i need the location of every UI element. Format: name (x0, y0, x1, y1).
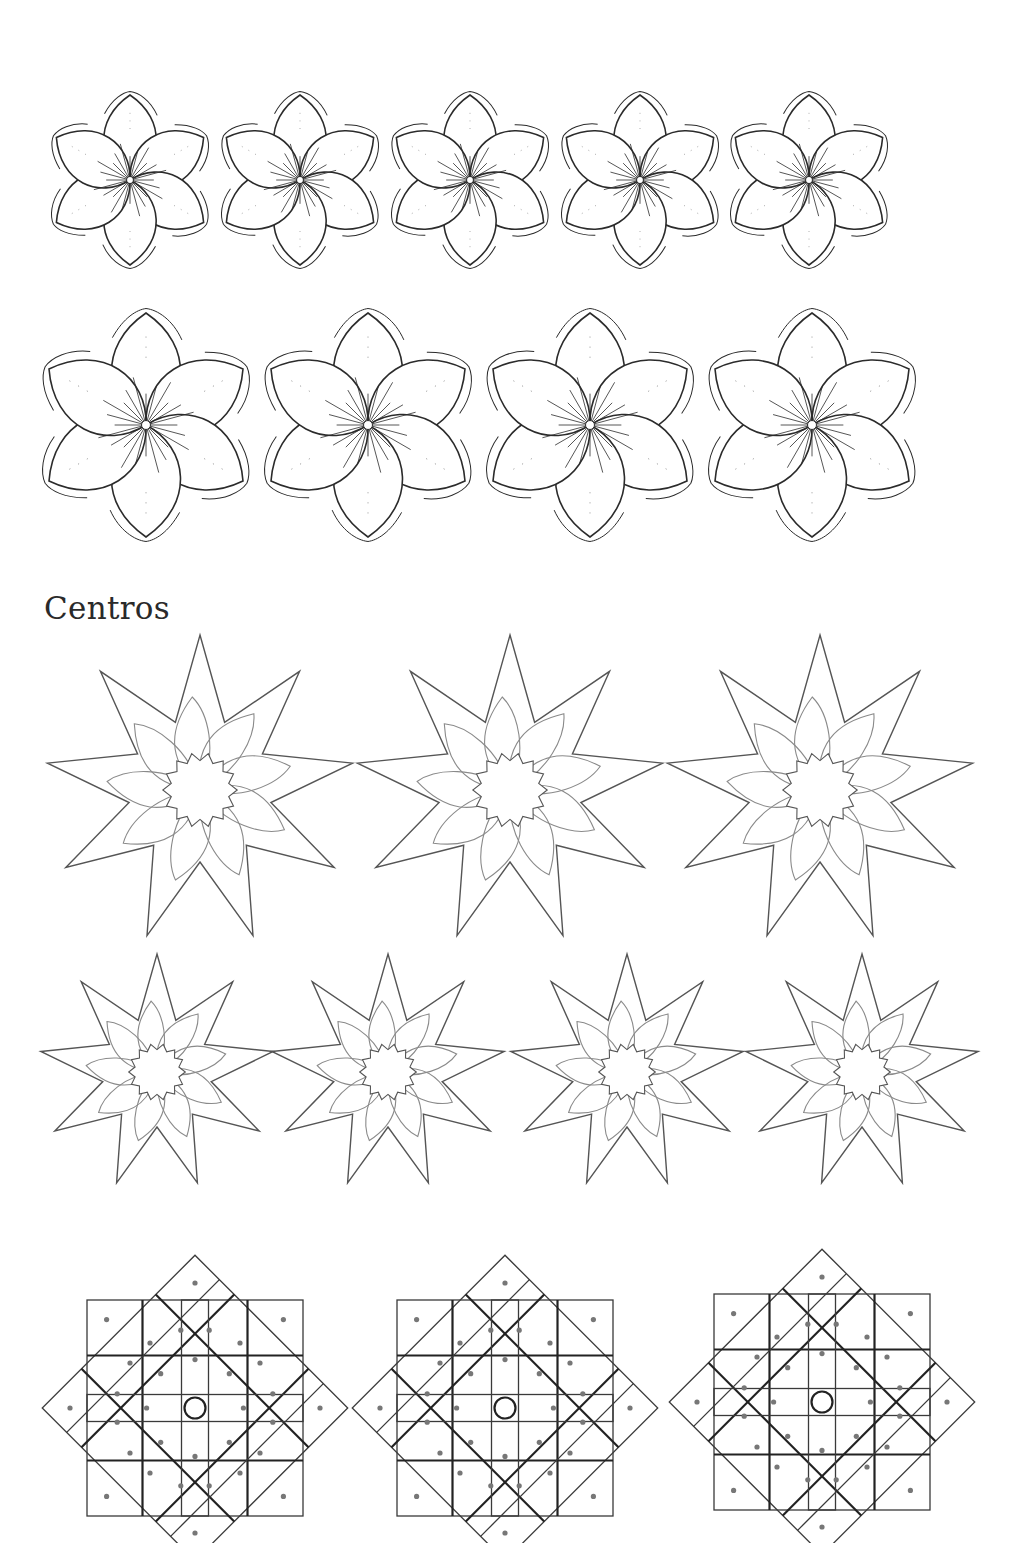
geometric-medallion-icon (352, 1255, 657, 1543)
geometric-medallion-row (0, 0, 1033, 1543)
geometric-medallion-icon (669, 1249, 974, 1543)
geometric-medallion-icon (42, 1255, 347, 1543)
